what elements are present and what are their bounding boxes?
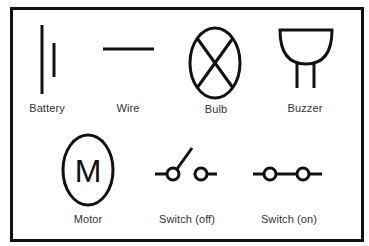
buzzer-icon: [280, 30, 332, 88]
switch-off-label: Switch (off): [159, 213, 215, 225]
motor-icon: M: [63, 135, 113, 205]
battery-label: Battery: [29, 102, 65, 114]
wire-label: Wire: [116, 102, 139, 114]
circuit-symbols-diagram: M Battery Wire Bulb Buzzer Motor Switch …: [0, 0, 369, 246]
switch-open-icon: [155, 148, 217, 180]
switch-closed-icon: [253, 168, 322, 180]
motor-label: Motor: [74, 213, 103, 225]
symbols-drawing: M: [0, 0, 369, 246]
motor-glyph: M: [75, 153, 102, 189]
bulb-label: Bulb: [205, 103, 227, 115]
bulb-icon: [190, 28, 240, 98]
battery-icon: [42, 25, 54, 94]
buzzer-label: Buzzer: [288, 102, 323, 114]
switch-on-label: Switch (on): [261, 213, 317, 225]
